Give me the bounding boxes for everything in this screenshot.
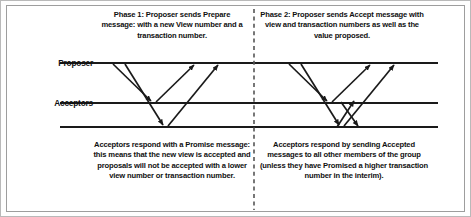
lifeline-label-acceptors: Acceptors [19,98,93,108]
caption-phase2-bottom: Acceptors respond by sending Accepted me… [259,140,429,181]
message-accepted-peer-down [341,102,358,126]
caption-phase2-top: Phase 2: Proposer sends Accept message w… [259,10,425,41]
phase-1-messages [113,64,218,126]
phase-2-messages [289,64,394,127]
message-promise-2 [168,65,218,126]
caption-phase1-top: Phase 1: Proposer sends Prepare message:… [97,10,247,41]
caption-phase1-bottom: Acceptors respond with a Promise message… [93,140,251,181]
message-prepare-2 [125,64,163,125]
message-promise-1 [156,65,194,102]
message-accept-2 [301,64,339,125]
lifelines [60,63,438,127]
message-accepted-1 [332,65,370,102]
diagram-frame: Proposer Acceptors Phase 1: Proposer sen… [0,0,471,217]
lifeline-label-proposer: Proposer [19,58,93,68]
